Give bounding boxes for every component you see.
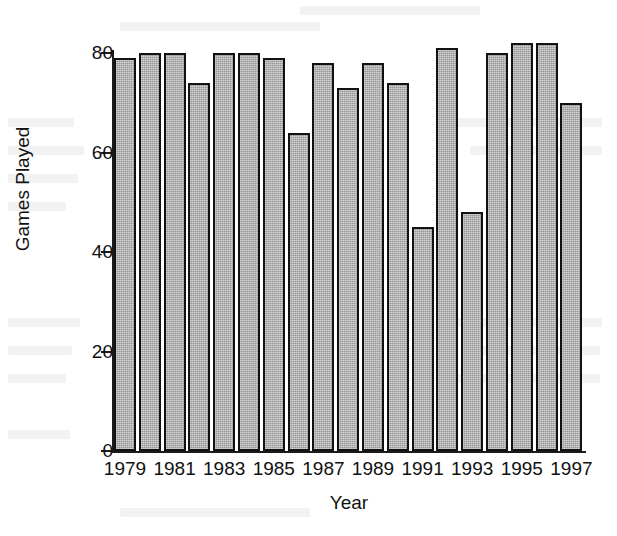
y-axis-tick-label: 40	[67, 242, 113, 261]
bar-1988	[337, 88, 359, 451]
bar-1986	[288, 133, 310, 451]
x-axis-tick-label: 1991	[397, 458, 449, 481]
x-axis-tick-label: 1979	[99, 458, 151, 481]
x-axis-tick-label: 1993	[446, 458, 498, 481]
x-axis-tick-label: 1983	[198, 458, 250, 481]
bar-1987	[312, 63, 334, 451]
bar-1983	[213, 53, 235, 451]
bar-1980	[139, 53, 161, 451]
bars-layer	[114, 0, 586, 452]
bar-1982	[188, 83, 210, 451]
bar-1979	[114, 58, 136, 451]
x-axis-tick-label: 1989	[347, 458, 399, 481]
bar-1989	[362, 63, 384, 451]
x-axis-tick-label: 1995	[496, 458, 548, 481]
bar-1992	[436, 48, 458, 451]
x-axis-tick-labels: 1979198119831985198719891991199319951997	[114, 458, 592, 486]
bar-1993	[461, 212, 483, 451]
y-axis-tick-label: 20	[67, 342, 113, 361]
y-axis-tick-label: 60	[67, 143, 113, 162]
y-axis-tick-label: 80	[67, 43, 113, 62]
x-axis-tick-label: 1981	[149, 458, 201, 481]
bar-1985	[263, 58, 285, 451]
bar-1995	[511, 43, 533, 451]
x-axis-tick-label: 1997	[545, 458, 597, 481]
x-axis-tick-label: 1987	[297, 458, 349, 481]
x-axis-tick-label: 1985	[248, 458, 300, 481]
plot-area: 020406080 197919811983198519871989199119…	[0, 0, 617, 536]
bar-chart-figure: 020406080 197919811983198519871989199119…	[0, 0, 617, 536]
bar-1991	[412, 227, 434, 451]
bar-1981	[164, 53, 186, 451]
bar-1994	[486, 53, 508, 451]
x-axis-title: Year	[112, 492, 586, 514]
y-axis-title: Games Played	[12, 109, 34, 269]
bar-1997	[560, 103, 582, 451]
bar-1996	[536, 43, 558, 451]
bar-1990	[387, 83, 409, 451]
bar-1984	[238, 53, 260, 451]
